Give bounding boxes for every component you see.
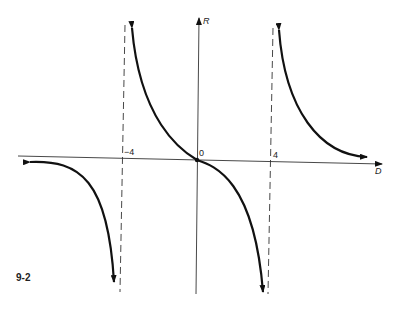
asymptote-pos4 bbox=[268, 28, 273, 294]
d-axis-label: D bbox=[375, 166, 382, 176]
figure-label: 9-2 bbox=[16, 272, 30, 283]
tick-label-pos4: 4 bbox=[273, 150, 278, 160]
tick-label-zero: 0 bbox=[199, 148, 204, 158]
r-axis-label: R bbox=[203, 16, 210, 26]
origin-point bbox=[195, 158, 199, 162]
branch-right bbox=[279, 30, 367, 157]
branch-left bbox=[30, 162, 114, 282]
tick-label-neg4: −4 bbox=[124, 147, 134, 157]
